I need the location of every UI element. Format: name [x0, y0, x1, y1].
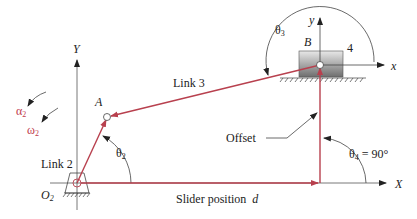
link-2 — [77, 120, 106, 183]
global-x-label: X — [395, 178, 402, 190]
theta2-label: θ2 — [116, 147, 126, 161]
alpha2-arrow — [28, 92, 46, 106]
alpha2-label: α2 — [16, 105, 26, 119]
offset-label: Offset — [226, 132, 256, 144]
global-y-label: Y — [73, 43, 80, 55]
point-b-label: B — [304, 36, 311, 48]
link-4-label: 4 — [347, 42, 353, 54]
omega2-arrow — [42, 108, 58, 122]
local-y-label: y — [309, 14, 314, 26]
point-a-label: A — [95, 96, 102, 108]
link-3-label: Link 3 — [173, 77, 205, 89]
omega2-label: ω2 — [27, 124, 39, 138]
link-3 — [111, 65, 320, 116]
ground-pivot-o2 — [63, 173, 90, 197]
link-2-label: Link 2 — [41, 158, 73, 170]
o2-label: O2 — [41, 189, 54, 203]
pin-b — [317, 62, 324, 69]
local-x-label: x — [391, 60, 396, 72]
pin-a — [104, 114, 111, 121]
slider-position-label: Slider position d — [176, 193, 258, 205]
theta4-label: θ4 = 90° — [349, 148, 388, 162]
offset-leader — [266, 113, 317, 138]
slider-crank-diagram — [0, 0, 417, 219]
theta3-label: θ3 — [275, 24, 285, 38]
